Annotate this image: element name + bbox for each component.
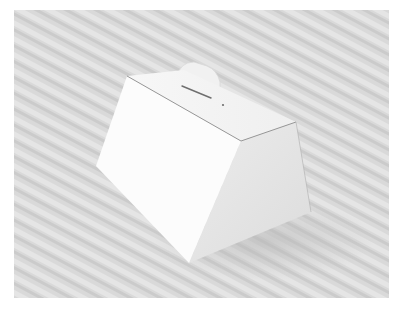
box-hole <box>222 104 224 106</box>
product-photo <box>14 10 389 298</box>
